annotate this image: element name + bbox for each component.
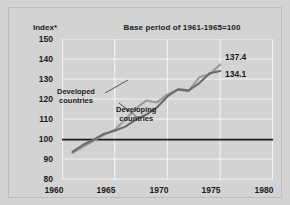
x-tick-label-1960: 1960 [34, 186, 74, 195]
y-tick-label-150: 150 [23, 35, 53, 44]
y-axis-caption: Index* [33, 23, 57, 32]
x-tick-label-1980: 1980 [244, 186, 284, 195]
series-annotation-developed: Developed countries [57, 87, 95, 105]
y-tick-label-90: 90 [23, 155, 53, 164]
chart-frame: Index* Base period of 1961-1965=100 150 … [8, 7, 282, 198]
y-tick-label-120: 120 [23, 95, 53, 104]
y-tick-label-140: 140 [23, 55, 53, 64]
series-annotation-developing-line1: Developing [116, 105, 156, 114]
x-tick-label-1970: 1970 [139, 186, 179, 195]
series-annotation-developed-line1: Developed [57, 87, 95, 96]
chart-title: Base period of 1961-1965=100 [87, 23, 277, 32]
x-tick-label-1965: 1965 [86, 186, 126, 195]
series-annotation-developing-line2: countries [116, 114, 156, 123]
series-annotation-developed-line2: countries [57, 96, 95, 105]
leader-line-developed [105, 80, 128, 93]
y-tick-label-80: 80 [23, 175, 53, 184]
y-tick-label-110: 110 [23, 115, 53, 124]
series-annotation-developing: Developing countries [116, 105, 156, 123]
chart-figure: Index* Base period of 1961-1965=100 150 … [0, 0, 290, 205]
y-tick-label-100: 100 [23, 135, 53, 144]
x-tick-label-1975: 1975 [191, 186, 231, 195]
value-label-developed: 137.4 [225, 53, 246, 62]
value-label-developing: 134.1 [225, 70, 246, 79]
y-tick-label-130: 130 [23, 75, 53, 84]
